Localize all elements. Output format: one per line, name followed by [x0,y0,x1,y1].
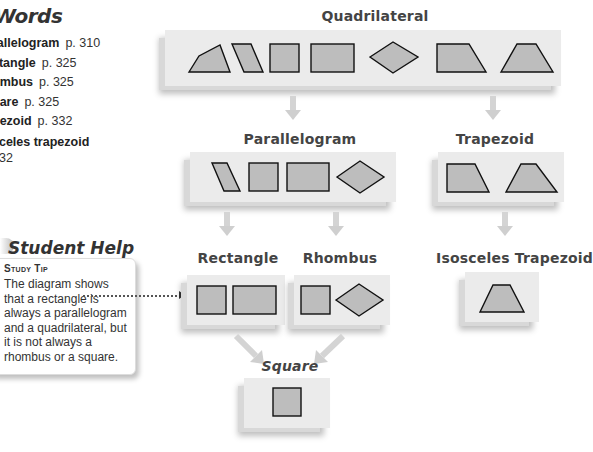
square-shape [273,388,301,416]
